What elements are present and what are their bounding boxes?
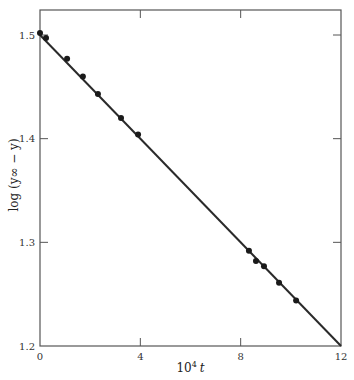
data-point (246, 248, 252, 254)
data-point (253, 258, 259, 264)
data-point (95, 91, 101, 97)
data-point (43, 35, 49, 41)
tick-labels: 048121.21.31.41.5 (19, 30, 347, 363)
data-point (37, 30, 43, 36)
x-tick-label: 4 (137, 351, 143, 362)
data-point (276, 280, 282, 286)
y-tick-label: 1.5 (19, 30, 35, 41)
data-point (293, 297, 299, 303)
x-axis-label-sup: 4 (192, 360, 197, 369)
data-point (118, 115, 124, 121)
data-point (135, 132, 141, 138)
y-axis-label: log (y∞ − y) (7, 138, 21, 211)
x-tick-label: 0 (37, 351, 43, 362)
axis-ticks (40, 10, 341, 346)
plot-frame (40, 10, 341, 346)
y-tick-label: 1.4 (19, 133, 35, 144)
x-axis-label: 104t (176, 360, 204, 375)
chart: 048121.21.31.41.5 104t log (y∞ − y) (0, 0, 354, 380)
y-tick-label: 1.3 (19, 237, 35, 248)
data-point (80, 73, 86, 79)
x-tick-label: 8 (237, 351, 243, 362)
x-axis-label-base: 10 (176, 361, 191, 375)
data-point (64, 56, 70, 62)
data-point (261, 263, 267, 269)
y-tick-label: 1.2 (19, 341, 35, 352)
x-axis-label-var: t (200, 361, 205, 375)
x-tick-label: 12 (335, 351, 348, 362)
